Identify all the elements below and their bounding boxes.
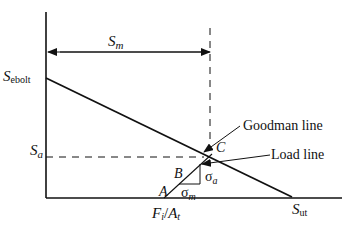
sigma-a-label: σa <box>205 169 218 186</box>
point-b-label: B <box>174 166 183 181</box>
goodman-diagram: Sm Sebolt Sa Sut Fi/At A B C σa σm Goodm… <box>0 0 354 228</box>
sa-label: Sa <box>30 142 44 160</box>
sut-label: Sut <box>292 201 308 218</box>
load-line-label: Load line <box>271 147 324 162</box>
sigma-m-label: σm <box>181 185 196 202</box>
load-pointer-arrow <box>202 155 270 164</box>
fi-at-label: Fi/At <box>151 205 180 222</box>
goodman-line <box>46 78 292 197</box>
sebolt-label: Sebolt <box>3 68 31 85</box>
sm-label: Sm <box>108 33 124 51</box>
point-a-label: A <box>158 184 168 199</box>
point-c-label: C <box>216 140 226 155</box>
goodman-line-label: Goodman line <box>243 118 323 133</box>
